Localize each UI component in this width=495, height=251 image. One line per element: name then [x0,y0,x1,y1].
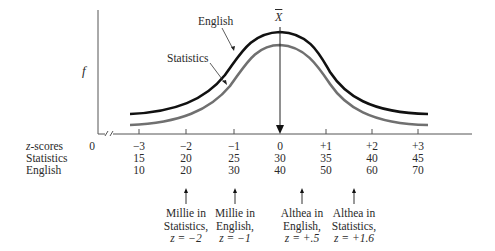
english-curve-label: English [198,15,233,27]
z-score: +2 [352,140,392,152]
statistics-pointer [210,63,225,83]
row-label-english: English [26,164,61,176]
statistics-score: 25 [214,152,254,164]
statistics-curve-label: Statistics [167,52,209,64]
statistics-score: 45 [398,152,438,164]
z-score: −1 [214,140,254,152]
statistics-score: 40 [352,152,392,164]
english-score: 70 [398,164,438,176]
z-score: −2 [166,140,206,152]
row-label-statistics: Statistics [26,152,68,164]
annotation-althea-statistics: Althea in Statistics, z = +1.6 [319,207,389,245]
z-score: +3 [398,140,438,152]
z-score: +1 [306,140,346,152]
english-score: 40 [260,164,300,176]
english-score: 50 [306,164,346,176]
axis-break-icon [105,131,113,136]
english-score: 20 [166,164,206,176]
english-score: 30 [214,164,254,176]
z-score: 0 [260,140,300,152]
statistics-score: 15 [119,152,159,164]
z-score: −3 [119,140,159,152]
mean-label-xbar: X [275,11,282,23]
mean-arrowhead-icon [276,125,284,134]
english-score: 10 [119,164,159,176]
y-axis-label-f: f [82,65,86,77]
statistics-score: 30 [260,152,300,164]
annotation-millie-english: Millie in English, z = −1 [200,207,270,245]
statistics-score: 35 [306,152,346,164]
english-pointer [222,28,233,49]
english-score: 60 [352,164,392,176]
statistics-score: 20 [166,152,206,164]
annotation-arrows [186,192,354,204]
row-label-z-scores: z-scores [26,140,63,152]
axis-origin-label: 0 [72,140,112,152]
